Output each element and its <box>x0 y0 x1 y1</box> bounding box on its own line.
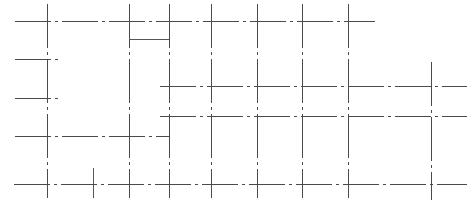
horizontal-grid-axes <box>14 22 467 185</box>
solid-segments <box>94 40 170 199</box>
vertical-grid-axes <box>48 4 432 200</box>
structural-grid-plan <box>0 0 475 211</box>
cad-drawing-canvas <box>0 0 475 211</box>
